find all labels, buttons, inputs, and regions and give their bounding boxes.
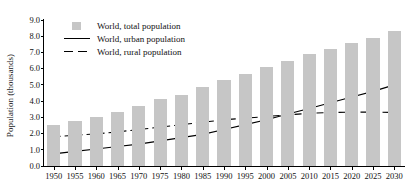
bar <box>154 99 167 166</box>
x-axis-tick-label: 2000 <box>258 172 275 181</box>
x-axis-tick-label: 1965 <box>109 172 126 181</box>
x-axis-tick-mark <box>203 167 204 170</box>
x-axis-tick-mark <box>118 167 119 170</box>
legend-solid-line-icon <box>64 33 90 44</box>
y-axis-tick-label: 7.0 <box>29 48 40 57</box>
x-axis-tick-label: 1985 <box>194 172 211 181</box>
bar <box>239 74 252 166</box>
x-axis-tick-mark <box>96 167 97 170</box>
bar <box>68 121 81 166</box>
population-chart: Population (thousands) 0.01.02.03.04.05.… <box>0 0 418 191</box>
x-axis-tick-label: 2005 <box>279 172 296 181</box>
dash-segment-icon <box>64 51 73 52</box>
x-axis-tick-mark <box>330 167 331 170</box>
legend-item: World, rural population <box>64 45 274 58</box>
bar <box>90 117 103 166</box>
x-axis-tick-mark <box>245 167 246 170</box>
x-axis-tick-label: 1980 <box>173 172 190 181</box>
legend-swatch-icon <box>64 20 90 31</box>
x-axis-tick-mark <box>160 167 161 170</box>
x-axis-tick-label: 1950 <box>45 172 62 181</box>
bar <box>217 80 230 166</box>
x-axis-tick-mark <box>373 167 374 170</box>
y-axis-tick-label: 9.0 <box>29 15 40 24</box>
y-axis-tick-label: 0.0 <box>29 161 40 170</box>
y-axis-tick-label: 6.0 <box>29 64 40 73</box>
y-axis-tick-label: 2.0 <box>29 129 40 138</box>
bar <box>324 49 337 166</box>
bar <box>281 61 294 166</box>
x-axis-tick-label: 1975 <box>152 172 169 181</box>
bar <box>388 31 401 166</box>
y-axis-tick-label: 5.0 <box>29 80 40 89</box>
x-axis-tick-mark <box>267 167 268 170</box>
bar <box>132 106 145 166</box>
x-axis-tick-label: 1995 <box>237 172 254 181</box>
y-axis-tick-label: 1.0 <box>29 145 40 154</box>
bar <box>47 125 60 166</box>
bar <box>260 67 273 166</box>
square-swatch-icon <box>72 22 81 30</box>
x-axis-tick-label: 1970 <box>130 172 147 181</box>
x-axis-tick-label: 1990 <box>216 172 233 181</box>
bar <box>196 87 209 166</box>
x-axis-tick-mark <box>288 167 289 170</box>
legend-item-label: World, total population <box>97 21 181 31</box>
legend-item: World, urban population <box>64 32 274 45</box>
x-axis-tick-mark <box>352 167 353 170</box>
bar <box>111 112 124 166</box>
x-axis-tick-mark <box>181 167 182 170</box>
x-axis-tick-mark <box>54 167 55 170</box>
y-axis-tick-label: 4.0 <box>29 96 40 105</box>
x-axis-tick-mark <box>75 167 76 170</box>
bar <box>345 43 358 166</box>
solid-line-icon <box>64 38 90 39</box>
x-axis-tick-label: 2010 <box>301 172 318 181</box>
x-axis-tick-mark <box>394 167 395 170</box>
x-axis-tick-mark <box>224 167 225 170</box>
x-axis-tick-mark <box>139 167 140 170</box>
dash-segment-icon <box>78 51 87 52</box>
bar <box>303 54 316 166</box>
x-axis-tick-label: 1955 <box>66 172 83 181</box>
x-axis-tick-label: 1960 <box>88 172 105 181</box>
x-axis-tick-label: 2020 <box>343 172 360 181</box>
bar <box>366 38 379 166</box>
legend-item-label: World, rural population <box>97 47 182 57</box>
y-axis-tick-label: 8.0 <box>29 31 40 40</box>
y-axis-tick-label: 3.0 <box>29 113 40 122</box>
legend-item: World, total population <box>64 19 274 32</box>
chart-legend: World, total populationWorld, urban popu… <box>64 19 274 58</box>
x-axis-tick-label: 2015 <box>322 172 339 181</box>
bar <box>175 95 188 166</box>
y-axis-title: Population (thousands) <box>3 0 17 191</box>
legend-dashed-line-icon <box>64 46 90 57</box>
x-axis-tick-label: 2030 <box>386 172 403 181</box>
x-axis-tick-mark <box>309 167 310 170</box>
x-axis-tick-label: 2025 <box>365 172 382 181</box>
legend-item-label: World, urban population <box>97 34 185 44</box>
